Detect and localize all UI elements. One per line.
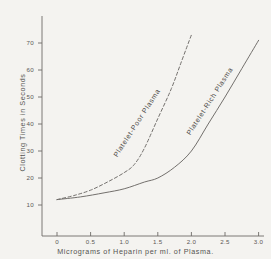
series-line: [57, 35, 191, 200]
x-tick-label: 2.5: [215, 238, 235, 245]
x-tick-label: 0.5: [81, 238, 101, 245]
y-axis-title: Clotting Times in Seconds: [18, 63, 27, 183]
y-tick-label: 10: [16, 201, 34, 208]
x-tick-label: 3.0: [249, 238, 269, 245]
x-axis-title: Micrograms of Heparin per ml. of Plasma.: [0, 247, 271, 256]
x-tick-label: 1.5: [148, 238, 168, 245]
chart-figure: 10203040506070 00.51.01.52.02.53.0 Plate…: [0, 0, 271, 259]
x-tick-label: 1.0: [114, 238, 134, 245]
x-tick-marks: [57, 232, 259, 236]
x-tick-label: 0: [47, 238, 67, 245]
x-tick-label: 2.0: [181, 238, 201, 245]
series-line: [57, 40, 259, 199]
data-series-group: [57, 35, 259, 200]
y-tick-marks: [38, 43, 42, 205]
y-tick-label: 70: [16, 39, 34, 46]
axes: [42, 16, 264, 236]
